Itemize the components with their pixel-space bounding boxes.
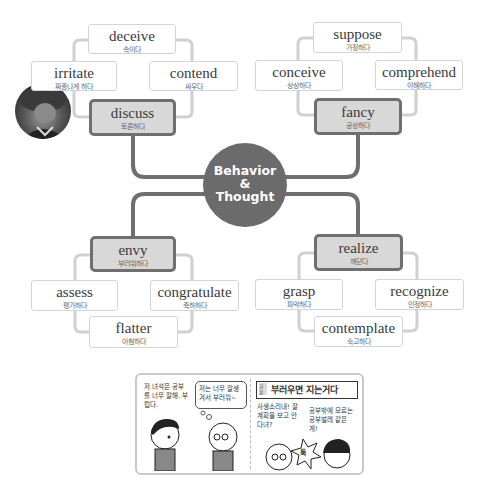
word-node-irritate: irritate 짜증나게 하다 — [31, 61, 117, 91]
word-korean: 파악하다 — [256, 301, 342, 310]
word-korean: 부러워하다 — [93, 260, 173, 269]
word-english: grasp — [256, 284, 342, 299]
word-english: assess — [32, 285, 117, 300]
word-english: fancy — [317, 105, 399, 120]
word-node-recognize: recognize 인정하다 — [375, 279, 464, 310]
word-korean: 평가하다 — [32, 302, 117, 311]
word-node-assess: assess 평가하다 — [31, 280, 118, 311]
word-node-comprehend: comprehend 이해하다 — [375, 60, 463, 90]
word-korean: 상상하다 — [256, 82, 342, 91]
word-english: envy — [93, 243, 173, 258]
word-english: suppose — [314, 27, 401, 42]
word-english: flatter — [90, 321, 177, 336]
word-english: congratulate — [151, 285, 238, 300]
word-node-grasp: grasp 파악하다 — [255, 279, 343, 310]
word-english: contend — [150, 66, 237, 81]
word-korean: 깨닫다 — [317, 258, 400, 267]
comic-sfx: 툭 — [300, 449, 306, 458]
main-node-realize: realize 깨닫다 — [314, 234, 403, 271]
word-english: contemplate — [315, 321, 402, 336]
word-node-congratulate: congratulate 축하하다 — [150, 280, 239, 311]
word-korean: 가정하다 — [314, 44, 401, 53]
word-node-deceive: deceive 속이다 — [88, 24, 176, 54]
word-node-conceive: conceive 상상하다 — [255, 60, 343, 91]
branch-envy — [133, 194, 210, 236]
panel-divider — [250, 379, 251, 469]
word-korean: 싸우다 — [150, 83, 237, 92]
word-node-flatter: flatter 아첨하다 — [89, 316, 178, 348]
word-english: irritate — [32, 66, 116, 81]
comic-strip: 저 녀석은 공부를 너무 잘해. 부럽다. 저는 너무 잘생겨서 부러워~ 교훈… — [135, 373, 364, 475]
word-korean: 이해하다 — [376, 82, 462, 91]
word-korean: 공상하다 — [317, 122, 399, 131]
branch-fancy — [280, 134, 358, 177]
word-korean: 속이다 — [89, 46, 175, 55]
word-korean: 짜증나게 하다 — [32, 83, 116, 92]
comic-panel-2: 교훈 부러우면 지는거다 사생소리내! 잘 계획을 보고 안 다녀? 공부밖에 … — [253, 377, 362, 471]
central-topic-hub: Behavior & Thought — [203, 143, 287, 227]
word-korean: 축하하다 — [151, 302, 238, 311]
word-english: recognize — [376, 284, 463, 299]
word-korean: 토론하다 — [92, 123, 173, 132]
word-english: realize — [317, 241, 400, 256]
word-node-suppose: suppose 가정하다 — [313, 22, 402, 53]
word-korean: 숙고하다 — [315, 338, 402, 347]
comic-argument-icon — [253, 377, 362, 471]
word-korean: 아첨하다 — [90, 338, 177, 347]
word-korean: 인정하다 — [376, 301, 463, 310]
word-node-contemplate: contemplate 숙고하다 — [314, 316, 403, 347]
word-english: deceive — [89, 29, 175, 44]
branch-discuss — [133, 135, 210, 177]
main-node-envy: envy 부러워하다 — [90, 236, 176, 272]
branch-realize — [280, 194, 358, 234]
main-node-discuss: discuss 토론하다 — [89, 99, 176, 136]
comic-characters-icon — [139, 377, 249, 471]
word-node-contend: contend 싸우다 — [149, 61, 238, 91]
main-node-fancy: fancy 공상하다 — [314, 98, 402, 135]
word-english: discuss — [92, 106, 173, 121]
comic-panel-1: 저 녀석은 공부를 너무 잘해. 부럽다. 저는 너무 잘생겨서 부러워~ — [139, 377, 249, 471]
word-english: conceive — [256, 65, 342, 80]
word-english: comprehend — [376, 65, 462, 80]
hub-title-line2: Thought — [203, 190, 287, 203]
